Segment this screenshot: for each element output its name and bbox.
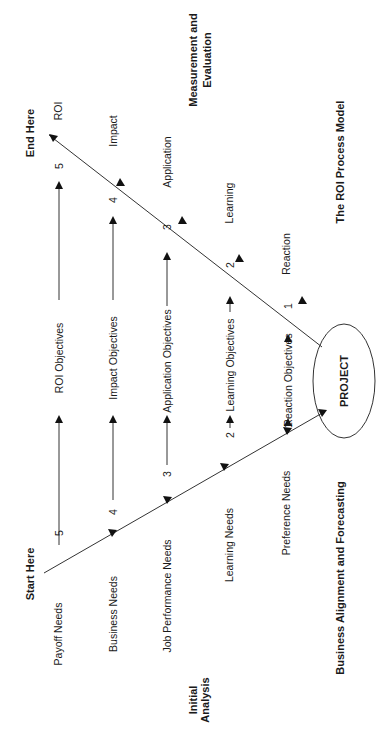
arrowhead-icon — [178, 216, 187, 224]
measurement-evaluation-heading: Measurement and Evaluation — [187, 13, 213, 107]
eval-level-2: 2 — [224, 262, 236, 268]
needs-label-business: Business Needs — [107, 576, 119, 652]
needs-level-2: 2 — [224, 432, 236, 438]
diagram-title: The ROI Process Model — [334, 101, 346, 224]
needs-label-learning: Learning Needs — [223, 508, 235, 582]
eval-level-1: 1 — [282, 303, 294, 309]
project-node: PROJECT — [313, 324, 375, 438]
needs-label-job-performance: Job Performance Needs — [161, 539, 173, 652]
arrowhead-icon — [116, 178, 125, 186]
arrowhead-icon — [55, 181, 63, 189]
eval-label-roi: ROI — [52, 102, 64, 121]
objectives-label-reaction: Reaction Objectives — [282, 333, 294, 426]
objectives-label-learning: Learning Objectives — [224, 319, 236, 412]
initial-analysis-heading: Initial Analysis — [187, 677, 211, 722]
needs-level-4: 4 — [107, 509, 119, 515]
arrowhead-icon — [109, 216, 117, 224]
arrowhead-icon — [163, 252, 171, 260]
arrowhead-icon — [226, 296, 234, 304]
arrowhead-icon — [55, 415, 63, 423]
arrowhead-icon — [235, 254, 244, 262]
needs-label-preference: Preference Needs — [280, 471, 292, 556]
eval-label-learning: Learning — [223, 182, 235, 223]
start-here-label: Start Here — [24, 548, 36, 601]
eval-level-4: 4 — [107, 197, 119, 203]
measurement-line-2: Evaluation — [201, 32, 213, 88]
initial-analysis-line-2: Analysis — [199, 677, 211, 722]
roi-process-model-diagram: PROJECT 5 4 3 2 1 Payoff Needs Business … — [0, 0, 383, 754]
objectives-label-impact: Impact Objectives — [107, 316, 119, 399]
arrowhead-icon — [226, 415, 234, 423]
end-here-label: End Here — [24, 109, 36, 157]
eval-label-impact: Impact — [107, 115, 119, 147]
eval-label-application: Application — [161, 136, 173, 188]
alignment-forecasting-heading: Business Alignment and Forecasting — [334, 481, 346, 674]
needs-label-payoff: Payoff Needs — [52, 603, 64, 666]
needs-level-5: 5 — [53, 530, 65, 536]
eval-level-5: 5 — [53, 163, 65, 169]
eval-label-reaction: Reaction — [280, 233, 292, 275]
objectives-label-application: Application Objectives — [161, 309, 173, 412]
eval-level-3: 3 — [161, 224, 173, 230]
needs-level-3: 3 — [161, 471, 173, 477]
initial-analysis-line-1: Initial — [187, 686, 199, 715]
measurement-line-1: Measurement and — [187, 13, 199, 107]
arrowhead-icon — [298, 296, 307, 304]
arrowhead-icon — [109, 415, 117, 423]
objectives-label-roi: ROI Objectives — [53, 323, 65, 394]
project-label: PROJECT — [338, 355, 350, 407]
arrowhead-icon — [163, 415, 171, 423]
